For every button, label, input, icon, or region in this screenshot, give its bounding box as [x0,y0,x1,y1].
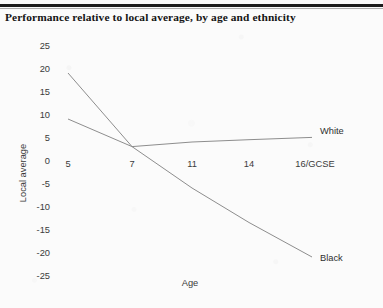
series-label-white: White [320,126,344,136]
x-tick: 5 [65,159,70,169]
plot-area: Local average 25 20 15 10 5 0 -5 -10 -15… [0,28,383,308]
x-tick: 11 [187,159,197,169]
title-rule [0,4,383,7]
title-rule-thin [0,8,383,9]
series-line-white [68,119,312,147]
x-tick: 16/GCSE [295,159,334,169]
chart-page: Performance relative to local average, b… [0,0,383,308]
x-tick: 14 [244,159,254,169]
page-title: Performance relative to local average, b… [5,11,375,23]
x-tick: 7 [129,159,134,169]
x-axis-title: Age [182,278,199,288]
series-label-black: Black [320,253,343,263]
